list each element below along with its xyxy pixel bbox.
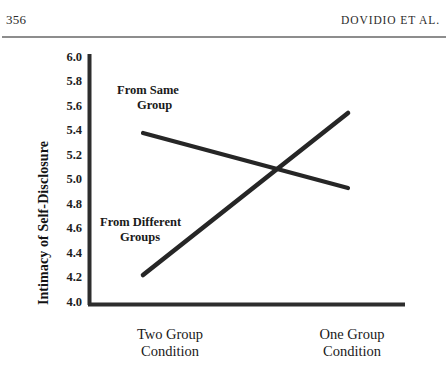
y-tick-label: 5.0: [52, 173, 82, 186]
y-tick-label: 4.6: [52, 222, 82, 235]
y-tick-label: 5.6: [52, 100, 82, 113]
x-category-label-two-group-line2: Condition: [141, 343, 199, 359]
document-page: 356 DOVIDIO ET AL. 6.0 5.8 5.6 5.4 5.2 5…: [0, 0, 448, 371]
y-tick-label: 6.0: [52, 51, 82, 64]
annotation-from-different-groups: From Different Groups: [100, 215, 181, 245]
y-tick-label: 4.8: [52, 198, 82, 211]
running-head: 356 DOVIDIO ET AL.: [0, 12, 448, 34]
y-tick-label: 5.4: [52, 124, 82, 137]
figure-line-chart: 6.0 5.8 5.6 5.4 5.2 5.0 4.8 4.6 4.4 4.2 …: [0, 40, 448, 371]
x-category-label-one-group-line1: One Group: [320, 326, 385, 342]
annotation-from-different-groups-line2: Groups: [100, 230, 181, 245]
y-tick-label: 4.4: [52, 247, 82, 260]
x-category-label-two-group-line1: Two Group: [137, 326, 203, 342]
x-category-label-one-group-line2: Condition: [323, 343, 381, 359]
page-number: 356: [6, 12, 26, 28]
y-axis-title: Intimacy of Self-Disclosure: [36, 113, 52, 333]
y-tick-label: 5.2: [52, 149, 82, 162]
annotation-from-same-group: From Same Group: [117, 83, 179, 113]
y-tick-label: 4.0: [52, 296, 82, 309]
annotation-from-different-groups-line1: From Different: [100, 215, 181, 229]
x-category-label-one-group: One Group Condition: [277, 326, 427, 360]
y-tick-label: 4.2: [52, 271, 82, 284]
annotation-from-same-group-line2: Group: [117, 98, 179, 113]
y-tick-label: 5.8: [52, 75, 82, 88]
series-line-from-different-groups: [143, 113, 348, 275]
header-divider: [2, 36, 446, 38]
series-line-from-same-group: [143, 133, 348, 188]
running-head-title: DOVIDIO ET AL.: [341, 14, 440, 26]
annotation-from-same-group-line1: From Same: [117, 83, 179, 97]
x-category-label-two-group: Two Group Condition: [95, 326, 245, 360]
